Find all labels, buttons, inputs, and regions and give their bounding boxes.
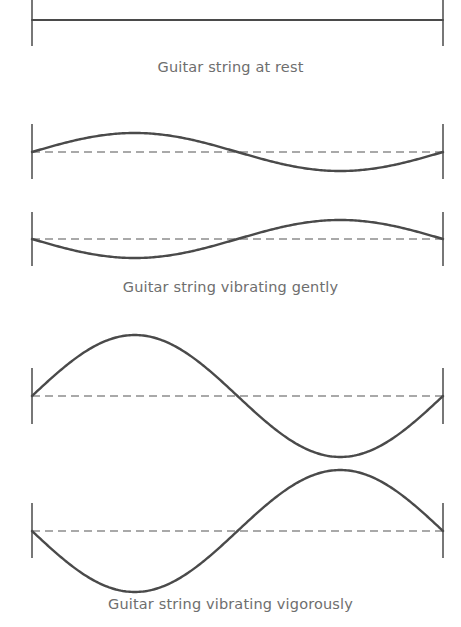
panel-gentle-a [32,124,443,179]
panel-vigorous-a [32,335,443,457]
panel-gentle-b-string-curve [32,220,443,258]
guitar-string-figure: Guitar string at rest Guitar string vibr… [0,0,461,627]
caption-string-at-rest: Guitar string at rest [0,59,461,75]
panel-rest [32,0,443,46]
panel-vigorous-b [32,470,443,592]
panel-vigorous-b-string-curve [32,470,443,592]
caption-vibrating-vigorously: Guitar string vibrating vigorously [0,596,461,612]
panel-gentle-b [32,212,443,266]
panel-gentle-a-string-curve [32,133,443,171]
vibration-diagram [0,0,461,627]
caption-vibrating-gently: Guitar string vibrating gently [0,279,461,295]
panel-vigorous-a-string-curve [32,335,443,457]
